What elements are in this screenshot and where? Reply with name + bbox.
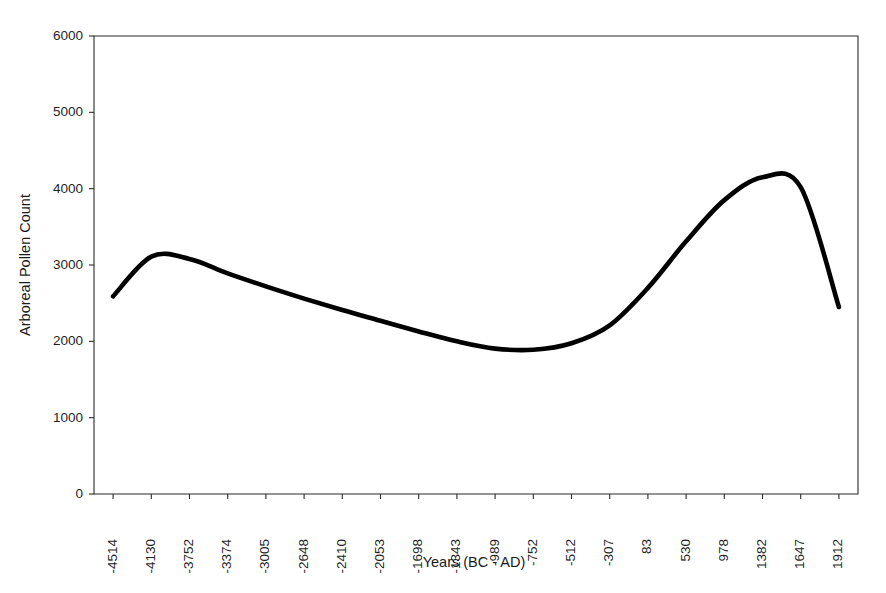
x-axis-tick-label: 83 bbox=[639, 539, 654, 554]
y-axis-tick-label: 1000 bbox=[53, 410, 83, 425]
y-axis-tick-label: 3000 bbox=[53, 257, 83, 272]
x-axis-tick-label: -2053 bbox=[372, 539, 387, 574]
x-axis-tick-label: -2410 bbox=[334, 539, 349, 574]
y-axis-title: Arboreal Pollen Count bbox=[17, 194, 33, 336]
chart-background bbox=[0, 0, 886, 593]
x-axis-tick-label: 530 bbox=[678, 539, 693, 562]
x-axis-tick-label: -3752 bbox=[181, 539, 196, 574]
x-axis-tick-label: -2648 bbox=[296, 539, 311, 574]
y-axis-tick-label: 0 bbox=[75, 486, 83, 501]
x-axis-tick-label: -512 bbox=[563, 539, 578, 566]
chart-canvas: 0100020003000400050006000 -4514-4130-375… bbox=[0, 0, 886, 593]
x-axis-tick-label: -4130 bbox=[143, 539, 158, 574]
x-axis-tick-label: 1382 bbox=[754, 539, 769, 569]
x-axis-tick-label: 978 bbox=[716, 539, 731, 562]
x-axis-tick-label: 1647 bbox=[792, 539, 807, 569]
y-axis-tick-label: 5000 bbox=[53, 104, 83, 119]
x-axis-tick-label: -3374 bbox=[219, 539, 234, 574]
pollen-count-line-chart: 0100020003000400050006000 -4514-4130-375… bbox=[0, 0, 886, 593]
y-axis-tick-label: 6000 bbox=[53, 28, 83, 43]
x-axis-tick-label: 1912 bbox=[830, 539, 845, 569]
x-axis-title: Years (BC - AD) bbox=[423, 554, 526, 570]
x-axis-tick-label: -4514 bbox=[105, 539, 120, 574]
y-axis-tick-label: 4000 bbox=[53, 181, 83, 196]
x-axis-tick-label: -752 bbox=[525, 539, 540, 566]
x-axis-tick-label: -307 bbox=[601, 539, 616, 566]
x-axis-tick-label: -3005 bbox=[257, 539, 272, 574]
y-axis-tick-label: 2000 bbox=[53, 333, 83, 348]
